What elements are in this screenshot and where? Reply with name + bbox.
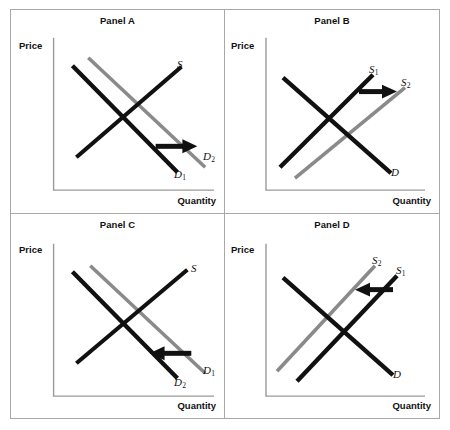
panel-a: Panel A Price Quantity S D1 D2: [11, 10, 225, 214]
panel-d-demand-label: D: [393, 368, 401, 380]
panel-b: Panel B Price Quantity S1 S2 D: [225, 10, 439, 214]
panel-d-supply-original-label: S1: [396, 264, 405, 276]
panel-c-demand-shifted-curve: [72, 272, 177, 378]
panel-a-demand-shifted-label: D2: [203, 150, 215, 162]
panel-d-demand-curve: [283, 278, 393, 376]
panel-d-supply-shifted-label: S2: [372, 254, 381, 266]
panel-c-demand-shifted-label: D2: [174, 376, 186, 388]
panel-b-shift-arrow: [359, 85, 397, 99]
panel-c-supply-curve: [76, 270, 187, 364]
panel-b-supply-shifted-label: S2: [401, 76, 410, 88]
panel-a-demand-original-label: D1: [174, 168, 186, 180]
panel-a-axes: [54, 38, 214, 190]
figure-frame: Panel A Price Quantity S D1 D2: [10, 9, 440, 419]
panel-b-axes: [266, 38, 425, 190]
panel-d-plot: [225, 214, 439, 418]
panel-d: Panel D Price Quantity S2 S1 D: [225, 214, 439, 418]
panel-grid: Panel A Price Quantity S D1 D2: [11, 10, 439, 418]
panel-b-supply-original-label: S1: [369, 63, 378, 75]
panel-b-demand-label: D: [391, 166, 399, 178]
panel-c-demand-original-label: D1: [203, 364, 215, 376]
panel-b-plot: [225, 10, 439, 213]
panel-c-demand-original-curve: [90, 266, 205, 373]
panel-c-supply-label: S: [191, 262, 197, 274]
panel-a-plot: [11, 10, 224, 213]
panel-a-supply-curve: [76, 67, 181, 158]
panel-c: Panel C Price Quantity S D1 D2: [11, 214, 225, 418]
panel-a-supply-label: S: [177, 58, 183, 70]
panel-c-plot: [11, 214, 224, 418]
